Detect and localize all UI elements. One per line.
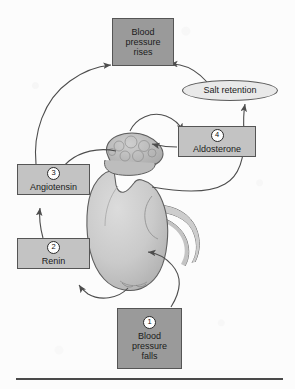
angiotensin-label: Angiotensin [30,182,77,192]
bp-falls-line2: pressure [132,341,167,351]
renin-label: Renin [42,256,66,266]
arrow-adrenal-to-aldosterone [130,114,183,131]
bp-rises-line2: pressure [125,37,160,47]
adrenal-gland [104,133,163,175]
arrow-salt-retention-to-bp-rises [170,64,207,82]
node-blood-pressure-falls[interactable]: 1 Blood pressure falls [117,308,182,369]
bp-rises-line1: Blood [131,27,154,37]
diagram-canvas: Blood pressure rises Salt retention 4 Al… [0,0,295,389]
bp-rises-line3: rises [133,47,152,57]
node-blood-pressure-rises[interactable]: Blood pressure rises [112,18,174,66]
aldosterone-label: Aldosterone [193,144,241,154]
step-number-2: 2 [47,241,60,254]
step-number-1: 1 [143,316,156,329]
node-renin[interactable]: 2 Renin [17,238,90,269]
bp-falls-line1: Blood [138,331,161,341]
step-number-4: 4 [211,129,224,142]
arrow-renin-to-angiotensin [40,208,43,238]
salt-retention-label: Salt retention [203,85,256,95]
node-salt-retention[interactable]: Salt retention [182,80,278,101]
node-angiotensin[interactable]: 3 Angiotensin [17,164,90,195]
node-aldosterone[interactable]: 4 Aldosterone [178,126,256,157]
bp-falls-line3: falls [141,351,157,361]
step-number-3: 3 [47,167,60,180]
footer-rule [16,378,283,380]
